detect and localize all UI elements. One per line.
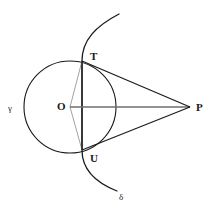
geometry-figure: O T U P γ δ bbox=[0, 0, 212, 213]
point-label-p: P bbox=[196, 101, 203, 113]
point-label-o: O bbox=[57, 100, 66, 112]
curve-label-delta: δ bbox=[119, 192, 123, 202]
arc-delta bbox=[82, 14, 119, 191]
segment-o-to-t bbox=[70, 61, 82, 107]
point-label-u: U bbox=[90, 152, 98, 164]
geometry-canvas: O T U P γ δ bbox=[0, 0, 212, 213]
segment-t-to-p bbox=[82, 61, 190, 107]
point-label-t: T bbox=[90, 50, 98, 62]
segment-o-to-u bbox=[70, 107, 82, 150]
segment-u-to-p bbox=[82, 107, 190, 150]
curve-label-gamma: γ bbox=[7, 103, 12, 113]
